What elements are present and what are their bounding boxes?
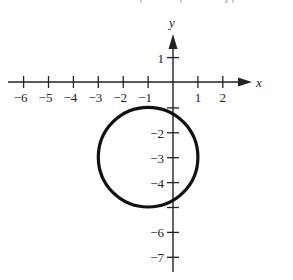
- coordinate-plane-figure: x −6−5−4−3−2−112 y 1−2−3−4−6−7: [0, 0, 293, 280]
- y-axis-ticks: 1−2−3−4−6−7: [150, 51, 179, 266]
- circle-graph: [98, 107, 198, 207]
- y-tick-label: −2: [150, 126, 164, 141]
- y-tick-label: −4: [150, 176, 164, 191]
- x-axis: x −6−5−4−3−2−112: [8, 75, 262, 105]
- x-tick-label: −1: [138, 90, 152, 105]
- x-tick-label: 1: [195, 90, 202, 105]
- x-tick-label: −5: [39, 90, 53, 105]
- y-axis: y 1−2−3−4−6−7: [150, 15, 179, 272]
- y-axis-label: y: [167, 15, 175, 30]
- y-tick-label: −6: [150, 225, 164, 240]
- cropped-header-fragments: [140, 0, 234, 3]
- y-axis-arrow-icon: [169, 34, 178, 49]
- y-tick-label: −3: [150, 151, 164, 166]
- plot-svg: x −6−5−4−3−2−112 y 1−2−3−4−6−7: [0, 0, 293, 280]
- x-tick-label: −4: [63, 90, 77, 105]
- x-tick-label: 2: [220, 90, 227, 105]
- x-tick-label: −6: [14, 90, 28, 105]
- y-tick-label: 1: [158, 51, 165, 66]
- x-axis-ticks: −6−5−4−3−2−112: [14, 76, 226, 105]
- y-tick-label: −7: [150, 250, 164, 265]
- x-axis-arrow-icon: [238, 78, 252, 87]
- x-tick-label: −3: [88, 90, 102, 105]
- x-tick-label: −2: [113, 90, 127, 105]
- x-axis-label: x: [255, 75, 262, 90]
